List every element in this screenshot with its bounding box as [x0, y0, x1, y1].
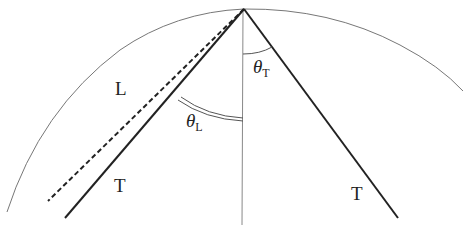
theta-t-subscript: T: [262, 66, 270, 80]
diagram-canvas: L T T θT θL: [0, 0, 472, 225]
theta-t-arc: [243, 47, 272, 54]
dashed-l-line: [48, 9, 244, 201]
theta-l-subscript: L: [195, 120, 202, 134]
vertical-axis-line: [242, 9, 243, 225]
label-theta-l: θL: [186, 110, 203, 134]
wavefront-arc: [7, 9, 463, 212]
theta-t-symbol: θ: [253, 56, 262, 77]
label-t-right: T: [351, 183, 363, 204]
right-t-line: [244, 9, 398, 218]
label-t-left: T: [114, 175, 126, 196]
label-theta-t: θT: [253, 56, 270, 80]
theta-l-symbol: θ: [186, 110, 195, 131]
label-l: L: [115, 78, 127, 99]
left-t-line: [65, 9, 244, 218]
